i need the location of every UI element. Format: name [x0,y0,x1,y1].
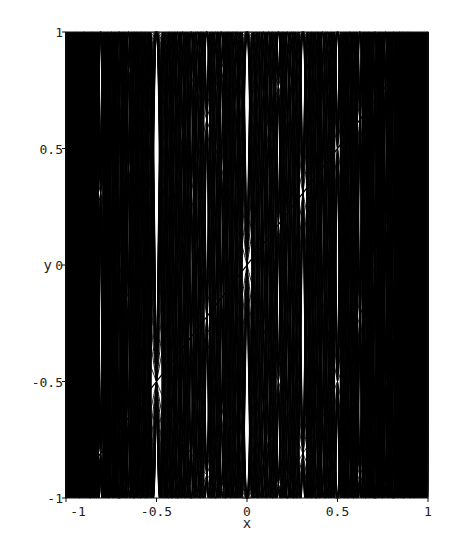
chebyshev-plot: -1-0.500.51 -1-0.500.51 x y [0,0,454,547]
x-tick-label: 1 [424,504,432,519]
plot-curves [66,32,428,498]
y-tick-label: 1 [55,25,63,40]
y-axis-label: y [44,257,52,273]
y-tick-label: -0.5 [32,375,63,390]
x-tick-label: -1 [70,504,86,519]
y-tick-label: 0.5 [40,142,63,157]
x-axis-label: x [243,515,251,531]
y-tick-label: -1 [47,491,63,506]
x-tick-label: -0.5 [141,504,172,519]
x-tick-label: 0.5 [326,504,349,519]
y-tick-label: 0 [55,258,63,273]
